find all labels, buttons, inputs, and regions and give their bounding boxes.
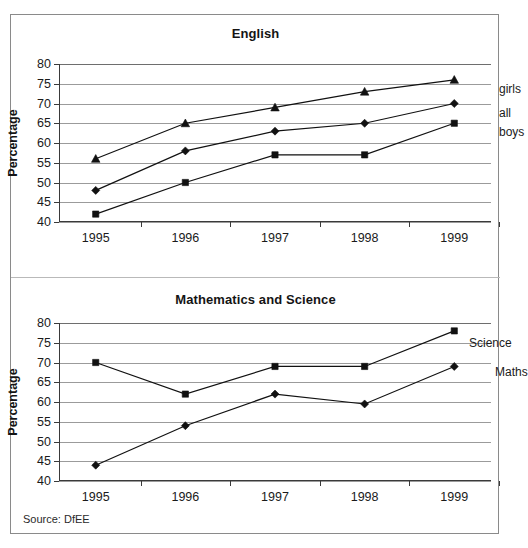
series-layer xyxy=(59,323,491,481)
data-point-marker-square xyxy=(182,391,188,397)
data-point-marker-diamond xyxy=(450,99,458,107)
x-tick-label: 1999 xyxy=(440,231,468,245)
x-tick-label: 1995 xyxy=(82,490,110,504)
y-tick-label: 50 xyxy=(37,435,51,449)
x-tick-label: 1997 xyxy=(261,231,289,245)
data-point-marker-diamond xyxy=(450,362,458,370)
y-tick-label: 55 xyxy=(37,415,51,429)
x-tick-mark xyxy=(499,222,500,227)
x-tick-label: 1996 xyxy=(171,231,199,245)
data-point-marker-diamond xyxy=(271,390,279,398)
y-tick-label: 50 xyxy=(37,176,51,190)
data-point-marker-diamond xyxy=(271,127,279,135)
chart-mathematics-science: Mathematics and Science Percentage 40455… xyxy=(11,277,500,534)
y-tick-label: 65 xyxy=(37,116,51,130)
y-tick-label: 40 xyxy=(37,215,51,229)
data-point-marker-square xyxy=(272,363,278,369)
chart-english: English Percentage 404550556065707580199… xyxy=(11,15,500,277)
series-label-maths: Maths xyxy=(495,365,528,379)
y-tick-label: 60 xyxy=(37,136,51,150)
data-point-marker-diamond xyxy=(181,422,189,430)
y-tick-label: 70 xyxy=(37,97,51,111)
x-tick-mark xyxy=(320,222,321,227)
y-tick-label: 55 xyxy=(37,156,51,170)
series-label-girls: girls xyxy=(499,82,521,96)
series-line-all xyxy=(96,104,455,191)
x-tick-mark xyxy=(409,222,410,227)
plot-area-mathsci: Percentage 40455055606570758019951996199… xyxy=(59,323,491,481)
data-point-marker-diamond xyxy=(361,119,369,127)
x-tick-mark xyxy=(141,222,142,227)
chart-mathsci-title: Mathematics and Science xyxy=(11,292,500,307)
x-tick-mark xyxy=(141,481,142,486)
data-point-marker-diamond xyxy=(92,461,100,469)
data-point-marker-square xyxy=(362,363,368,369)
series-label-science: Science xyxy=(469,336,512,350)
plot-area-english: Percentage 40455055606570758019951996199… xyxy=(59,64,491,222)
y-tick-label: 60 xyxy=(37,395,51,409)
data-point-marker-triangle xyxy=(450,76,459,84)
figure-frame: English Percentage 404550556065707580199… xyxy=(10,14,499,534)
y-tick-label: 70 xyxy=(37,356,51,370)
data-point-marker-square xyxy=(451,120,457,126)
y-tick-label: 40 xyxy=(37,474,51,488)
x-tick-label: 1995 xyxy=(82,231,110,245)
data-point-marker-square xyxy=(93,211,99,217)
data-point-marker-diamond xyxy=(361,400,369,408)
series-label-all: all xyxy=(499,106,511,120)
series-label-boys: boys xyxy=(499,125,524,139)
series-line-girls xyxy=(96,80,455,159)
data-point-marker-square xyxy=(362,152,368,158)
gridline xyxy=(59,222,491,223)
data-point-marker-square xyxy=(451,328,457,334)
data-point-marker-triangle xyxy=(91,155,100,163)
x-tick-label: 1998 xyxy=(351,231,379,245)
x-tick-label: 1997 xyxy=(261,490,289,504)
y-tick-label: 80 xyxy=(37,57,51,71)
x-tick-mark xyxy=(230,222,231,227)
chart-english-title: English xyxy=(11,26,500,41)
y-tick-label: 80 xyxy=(37,316,51,330)
x-tick-label: 1998 xyxy=(351,490,379,504)
series-layer xyxy=(59,64,491,222)
series-line-science xyxy=(96,331,455,394)
source-note: Source: DfEE xyxy=(23,513,90,525)
y-tick-label: 45 xyxy=(37,454,51,468)
y-tick-label: 65 xyxy=(37,375,51,389)
x-tick-mark xyxy=(230,481,231,486)
y-tick-label: 75 xyxy=(37,77,51,91)
y-tick-mark xyxy=(54,222,59,223)
y-axis-title-english: Percentage xyxy=(6,109,20,176)
data-point-marker-square xyxy=(93,359,99,365)
x-tick-label: 1999 xyxy=(440,490,468,504)
data-point-marker-square xyxy=(182,179,188,185)
data-point-marker-square xyxy=(272,152,278,158)
y-tick-label: 45 xyxy=(37,195,51,209)
x-tick-mark xyxy=(499,481,500,486)
x-tick-mark xyxy=(409,481,410,486)
y-tick-mark xyxy=(54,481,59,482)
y-tick-label: 75 xyxy=(37,336,51,350)
x-tick-label: 1996 xyxy=(171,490,199,504)
gridline xyxy=(59,481,491,482)
data-point-marker-diamond xyxy=(92,186,100,194)
x-tick-mark xyxy=(320,481,321,486)
y-axis-title-mathsci: Percentage xyxy=(6,368,20,435)
data-point-marker-diamond xyxy=(181,147,189,155)
